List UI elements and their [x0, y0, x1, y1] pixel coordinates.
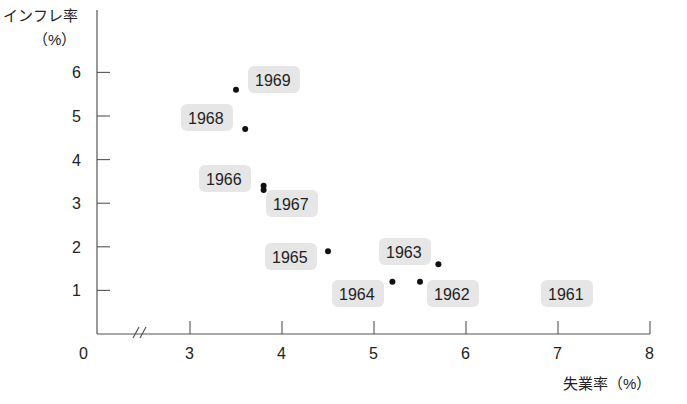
point-label: 1961	[548, 286, 584, 303]
data-point-dot	[261, 187, 267, 193]
y-tick-label: 2	[72, 239, 81, 256]
x-tick-label: 8	[645, 345, 654, 362]
y-tick-label: 5	[72, 108, 81, 125]
point-label: 1969	[255, 72, 291, 89]
x-tick-label: 3	[185, 345, 194, 362]
data-points: 196119621963196419651966196719681969	[181, 66, 593, 307]
y-axis-title: インフレ率	[3, 7, 78, 24]
data-point-dot	[233, 87, 239, 93]
y-tick-label: 6	[72, 64, 81, 81]
origin-label: 0	[79, 345, 88, 362]
point-label: 1966	[206, 171, 242, 188]
point-label: 1967	[273, 196, 309, 213]
data-point-dot	[389, 279, 395, 285]
y-ticks: 123456	[72, 64, 110, 299]
y-tick-label: 4	[72, 152, 81, 169]
point-label: 1962	[434, 286, 470, 303]
point-label: 1964	[339, 286, 375, 303]
scatter-chart: インフレ率 （%） 123456 345678 0 19611962196319…	[0, 0, 687, 404]
y-tick-label: 1	[72, 282, 81, 299]
point-label: 1963	[386, 244, 422, 261]
x-ticks: 345678	[185, 321, 654, 362]
x-axis-title: 失業率（%）	[563, 375, 651, 392]
axis-break-icon	[133, 327, 146, 338]
x-tick-label: 6	[461, 345, 470, 362]
data-point-dot	[325, 248, 331, 254]
data-point-dot	[435, 261, 441, 267]
point-label: 1965	[272, 249, 308, 266]
x-tick-label: 7	[553, 345, 562, 362]
x-tick-label: 5	[369, 345, 378, 362]
data-point-dot	[242, 126, 248, 132]
point-label: 1968	[188, 110, 224, 127]
y-tick-label: 3	[72, 195, 81, 212]
x-tick-label: 4	[277, 345, 286, 362]
y-axis-title-unit: （%）	[33, 31, 76, 48]
data-point-dot	[417, 279, 423, 285]
